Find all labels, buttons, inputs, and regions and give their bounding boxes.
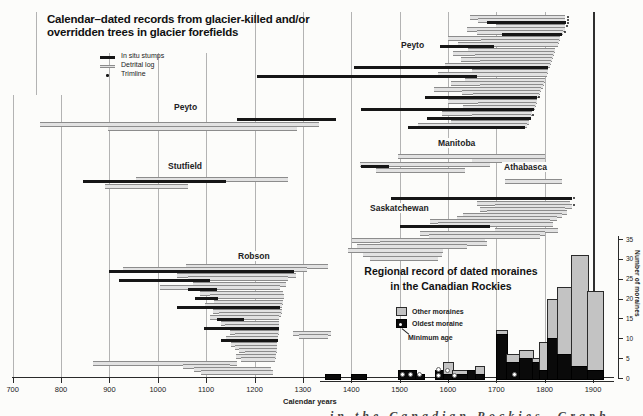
y-axis-tick-10 [618,338,623,339]
moraine-panel-title: Regional record of dated moraines in the… [340,264,562,294]
glacier-label-manitoba: Manitoba [436,138,477,148]
tree-bar [257,75,477,78]
tree-legend-label-detrital: Detrital log [121,61,154,68]
tree-bar [108,126,297,131]
x-axis-tick-label-1800: 1800 [530,385,560,394]
trimline-dot [566,25,568,27]
tree-bar [370,256,439,261]
moraine-title-line1: Regional record of dated moraines [340,264,562,279]
minimum-age-dot [408,372,413,377]
moraine-legend-label-other: Other moraines [412,308,464,315]
trimline-dot [532,114,534,116]
y-axis-tick-30 [618,259,623,260]
x-axis-tick-1100 [206,378,207,383]
y-axis-tick-25 [618,279,623,280]
tree-bar [210,294,285,299]
glacier-label-robson: Robson [236,251,272,261]
x-axis-tick-label-1900: 1900 [578,385,608,394]
other-moraines-swatch-icon [396,307,407,316]
y-axis-tick-label-20: 20 [626,295,633,302]
glacier-label-peyto: Peyto [399,40,426,50]
y-axis-tick-20 [618,299,623,300]
moraine-legend: Other moraines Oldest moraine Minimum ag… [394,305,504,345]
moraine-bar-oldest [475,374,485,380]
glacier-label-peyto: Peyto [172,102,199,112]
y-axis-tick-label-0: 0 [626,375,630,382]
moraine-title-line2: in the Canadian Rockies [340,279,562,294]
y-axis-tick-label-30: 30 [626,255,633,262]
x-axis-title: Calendar years [283,397,337,406]
y-axis-tick-label-25: 25 [626,275,633,282]
glacier-label-stutfield: Stutfield [166,161,204,171]
x-axis-tick-label-1200: 1200 [240,385,270,394]
figure-title: Calendar–dated records from glacier-kill… [47,13,309,39]
x-axis-tick-label-1000: 1000 [143,385,173,394]
figure-title-line1: Calendar–dated records from glacier-kill… [47,13,309,26]
moraine-legend-label-oldest: Oldest moraine [412,320,463,327]
y-axis-tick-15 [618,318,623,319]
minimum-age-dot-icon [399,323,402,326]
glacier-label-saskatchewan: Saskatchewan [368,203,431,213]
tree-legend-label-insitu: In situ stumps [121,52,164,59]
trimline-dot-icon [106,74,109,77]
tree-bar [201,370,273,375]
x-axis-tick-label-1300: 1300 [288,385,318,394]
trimline-dot [538,96,540,98]
tree-bar [105,184,188,189]
y-axis-tick-label-10: 10 [626,335,633,342]
x-axis-tick-label-1400: 1400 [336,385,366,394]
moraine-bar-other [587,291,604,372]
y-axis-tick-35 [618,239,623,240]
moraine-legend-label-minage: Minimum age [408,334,453,341]
moraine-bar-oldest [587,370,604,380]
trimline-dot [567,16,569,18]
glacier-label-athabasca: Athabasca [502,162,549,172]
figure-title-line2: overridden trees in glacier forefields [47,26,309,39]
x-axis-tick-1200 [255,378,256,383]
tree-bar [299,334,328,339]
x-axis-tick-label-900: 900 [94,385,124,394]
x-axis-tick-700 [13,378,14,383]
insitu-stumps-line-icon [100,56,115,59]
y-axis-tick-label-5: 5 [626,355,630,362]
data-layer: 7008009001000110012001300140015001600170… [0,0,643,416]
y-axis-title: Number of moraines [634,250,641,375]
x-axis-tick-label-1500: 1500 [385,385,415,394]
x-axis-tick-label-1700: 1700 [481,385,511,394]
tree-bar [391,197,571,200]
trimline-dot [573,204,575,206]
tree-bar [83,180,227,183]
minimum-age-dot [436,373,441,378]
x-axis-tick-label-1600: 1600 [433,385,463,394]
tree-bar [376,168,464,173]
detrital-log-line-icon [100,65,115,68]
figure-canvas: 7008009001000110012001300140015001600170… [0,0,643,416]
tree-bar [237,118,336,121]
moraine-bar-oldest [351,374,367,380]
y-axis-tick-label-35: 35 [626,236,633,243]
tree-bar [241,357,275,362]
x-axis-tick-1000 [158,378,159,383]
tree-legend-label-trimline: Trimline [121,70,146,77]
x-axis-tick-label-1100: 1100 [191,385,221,394]
minimum-age-dot [436,367,441,372]
x-axis-tick-1300 [303,378,304,383]
tree-bar [160,285,279,290]
trimline-dot [564,31,566,33]
x-axis-tick-label-700: 700 [0,385,28,394]
caption-fragment: in the Canadian Rockies. Graph [330,409,610,416]
minimum-age-dot [452,373,457,378]
minimum-age-dot [512,372,517,377]
x-axis-tick-900 [109,378,110,383]
trimline-dot [567,22,569,24]
tree-legend: In situ stumps Detrital log Trimline [98,52,188,80]
trimline-dot [567,19,569,21]
x-axis-tick-800 [61,378,62,383]
tree-bar [400,225,490,228]
x-axis-tick-label-800: 800 [46,385,76,394]
x-axis-line-lower [320,381,614,382]
trimline-dot [573,197,575,199]
y-axis-tick-0 [618,378,623,379]
y-axis-tick-5 [618,358,623,359]
moraine-bar-oldest [325,374,342,380]
